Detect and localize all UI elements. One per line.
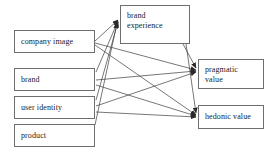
node-pragmatic-value[interactable]: pragmatic value [198,59,264,89]
node-label-brand-experience: brand experience [127,11,163,31]
node-user-identity[interactable]: user identity [14,96,95,119]
node-brand[interactable]: brand [14,68,95,91]
edge-brand-to-pragmatic-value [96,71,196,80]
node-label-pragmatic-value: pragmatic value [205,65,238,85]
node-product[interactable]: product [14,124,95,147]
node-hedonic-value[interactable]: hedonic value [198,105,264,129]
node-label-company-image: company image [21,37,73,47]
edge-company-image-to-brand-experience [95,20,118,41]
edge-brand-to-brand-experience [96,21,118,72]
node-label-brand: brand [21,75,40,85]
node-label-user-identity: user identity [21,103,62,113]
node-company-image[interactable]: company image [14,30,95,53]
edge-brand-experience-to-pragmatic-value [183,44,196,68]
node-brand-experience[interactable]: brand experience [120,5,190,44]
node-label-hedonic-value: hedonic value [205,112,251,122]
diagram-canvas: company imagebranduser identityproductbr… [0,0,279,156]
edge-brand-experience-to-hedonic-value [186,44,196,113]
edge-brand-to-hedonic-value [96,85,196,116]
edge-company-image-to-pragmatic-value [95,43,196,70]
node-label-product: product [21,131,46,141]
edge-user-identity-to-hedonic-value [96,112,196,117]
edge-user-identity-to-pragmatic-value [96,72,196,106]
